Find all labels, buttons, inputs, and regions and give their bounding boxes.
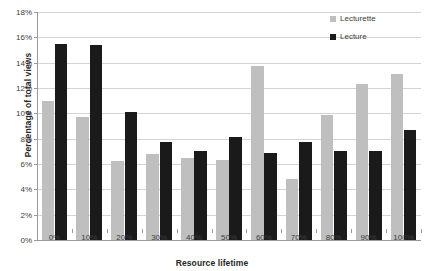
y-axis-tick-label: 2% <box>0 210 32 219</box>
legend-swatch-icon <box>330 34 336 40</box>
bar-lecturette-90pct <box>356 84 369 240</box>
x-axis-tick-label: 100% <box>393 233 413 242</box>
x-axis-tick-mark <box>177 229 178 233</box>
x-axis-tick-mark <box>37 229 38 233</box>
y-axis-tick-mark <box>34 189 37 190</box>
y-axis-tick-mark <box>34 215 37 216</box>
bar-lecturette-80pct <box>321 115 334 240</box>
legend-item-lecture[interactable]: Lecture <box>330 32 376 41</box>
bar-lecturette-100pct <box>391 74 404 240</box>
y-axis-tick-label: 0% <box>0 236 32 245</box>
gridline <box>37 12 421 13</box>
x-axis-tick-label: 10% <box>81 233 97 242</box>
x-axis-tick-label: 70% <box>291 233 307 242</box>
legend: LecturetteLecture <box>330 14 376 50</box>
legend-item-lecturette[interactable]: Lecturette <box>330 14 376 23</box>
bar-lecturette-10pct <box>76 117 89 240</box>
bar-lecture-100pct <box>404 130 417 240</box>
y-axis-tick-mark <box>34 240 37 241</box>
bar-lecturette-60pct <box>251 66 264 240</box>
x-axis-tick-mark <box>212 229 213 233</box>
y-axis-tick-mark <box>34 12 37 13</box>
x-axis-tick-mark <box>386 229 387 233</box>
bar-lecturette-0pct <box>42 101 55 240</box>
legend-label: Lecturette <box>340 14 376 23</box>
x-axis-tick-mark <box>281 229 282 233</box>
bar-lecture-0pct <box>55 44 68 240</box>
x-axis-title: Resource lifetime <box>0 258 424 268</box>
x-axis-tick-label: 80% <box>326 233 342 242</box>
y-axis-tick-mark <box>34 113 37 114</box>
x-axis-tick-mark <box>316 229 317 233</box>
y-axis-tick-label: 18% <box>0 8 32 17</box>
x-axis-tick-mark <box>72 229 73 233</box>
y-axis-tick-mark <box>34 164 37 165</box>
bar-chart: Percentage of total views 0%2%4%6%8%10%1… <box>0 0 424 271</box>
bar-lecture-40pct <box>194 151 207 240</box>
x-axis-tick-mark <box>107 229 108 233</box>
y-axis-tick-label: 16% <box>0 33 32 42</box>
x-axis-tick-label: 0% <box>49 233 61 242</box>
x-axis-tick-label: 50% <box>221 233 237 242</box>
bar-lecturette-40pct <box>181 158 194 240</box>
bar-lecture-90pct <box>369 151 382 240</box>
bar-lecture-20pct <box>125 112 138 240</box>
bar-lecturette-20pct <box>111 161 124 240</box>
y-axis-tick-mark <box>34 139 37 140</box>
bar-lecture-80pct <box>334 151 347 240</box>
x-axis-tick-label: 20% <box>116 233 132 242</box>
x-axis-tick-label: 60% <box>256 233 272 242</box>
y-axis-tick-label: 10% <box>0 109 32 118</box>
bar-lecture-30pct <box>160 142 173 240</box>
bar-lecturette-30pct <box>146 154 159 240</box>
y-axis-tick-mark <box>34 37 37 38</box>
bar-lecturette-50pct <box>216 160 229 240</box>
x-axis-tick-mark <box>246 229 247 233</box>
bar-lecturette-70pct <box>286 179 299 240</box>
bar-lecture-50pct <box>229 137 242 240</box>
y-axis-tick-label: 6% <box>0 160 32 169</box>
bar-lecture-70pct <box>299 142 312 240</box>
y-axis-line <box>37 12 38 241</box>
x-axis-tick-mark <box>351 229 352 233</box>
x-axis-tick-mark <box>142 229 143 233</box>
x-axis-tick-mark <box>421 229 422 233</box>
legend-swatch-icon <box>330 16 336 22</box>
x-axis-tick-label: 40% <box>186 233 202 242</box>
y-axis-tick-label: 14% <box>0 58 32 67</box>
y-axis-tick-mark <box>34 88 37 89</box>
y-axis-tick-label: 8% <box>0 134 32 143</box>
bar-lecture-60pct <box>264 153 277 240</box>
bar-lecture-10pct <box>90 45 103 240</box>
y-axis-tick-mark <box>34 63 37 64</box>
legend-label: Lecture <box>340 32 367 41</box>
x-axis-tick-label: 90% <box>361 233 377 242</box>
y-axis-tick-label: 12% <box>0 84 32 93</box>
x-axis-tick-label: 30% <box>151 233 167 242</box>
y-axis-tick-label: 4% <box>0 185 32 194</box>
